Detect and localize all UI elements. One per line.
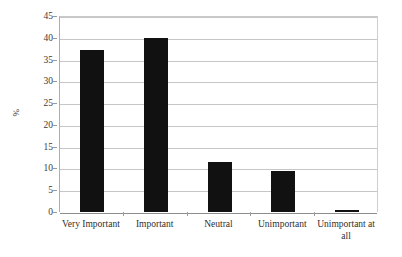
y-tick: 35 — [0, 60, 53, 61]
x-axis-category-label-line: Unimportant at — [310, 218, 382, 230]
bar-chart-figure: % 051015202530354045 Very ImportantImpor… — [0, 0, 402, 257]
x-axis-category-label-line: Important — [119, 218, 191, 230]
y-tick-mark — [53, 190, 57, 191]
y-axis-ticks: 051015202530354045 — [0, 16, 53, 212]
plot-area — [59, 16, 378, 212]
y-tick: 15 — [0, 147, 53, 148]
y-tick-mark — [53, 147, 57, 148]
y-tick-mark — [53, 212, 57, 213]
x-axis-category-label: Very Important — [55, 218, 127, 230]
x-axis-category-label-line: Unimportant — [246, 218, 318, 230]
x-axis-category-label: Neutral — [183, 218, 255, 230]
y-tick: 5 — [0, 190, 53, 191]
y-tick-label: 0 — [7, 207, 53, 217]
y-tick: 20 — [0, 125, 53, 126]
bar — [144, 38, 168, 212]
y-tick-mark — [53, 125, 57, 126]
y-tick: 25 — [0, 103, 53, 104]
x-tick-mark — [187, 212, 188, 216]
bars-group — [60, 17, 377, 212]
bar — [80, 50, 104, 212]
y-tick: 10 — [0, 168, 53, 169]
y-tick: 45 — [0, 16, 53, 17]
y-tick-mark — [53, 60, 57, 61]
y-tick: 30 — [0, 81, 53, 82]
y-tick: 40 — [0, 38, 53, 39]
y-tick-label: 30 — [7, 76, 53, 86]
bar — [271, 171, 295, 212]
y-tick-label: 45 — [7, 11, 53, 21]
y-tick-label: 20 — [7, 120, 53, 130]
y-tick-mark — [53, 168, 57, 169]
x-axis-category-label: Unimportant — [246, 218, 318, 230]
y-tick-label: 15 — [7, 142, 53, 152]
y-tick-mark — [53, 38, 57, 39]
x-axis-labels: Very ImportantImportantNeutralUnimportan… — [59, 218, 378, 252]
y-tick-label: 5 — [7, 185, 53, 195]
y-tick-label: 10 — [7, 163, 53, 173]
y-tick-label: 35 — [7, 55, 53, 65]
x-axis-ticks — [59, 212, 378, 217]
y-tick-mark — [53, 81, 57, 82]
y-tick-label: 25 — [7, 98, 53, 108]
x-axis-category-label-line: all — [310, 230, 382, 242]
y-tick-label: 40 — [7, 33, 53, 43]
x-axis-category-label-line: Neutral — [183, 218, 255, 230]
y-tick-mark — [53, 103, 57, 104]
x-axis-category-label: Unimportant atall — [310, 218, 382, 242]
x-axis-category-label-line: Very Important — [55, 218, 127, 230]
y-tick: 0 — [0, 212, 53, 213]
x-tick-mark — [314, 212, 315, 216]
x-tick-mark — [123, 212, 124, 216]
bar — [208, 162, 232, 212]
x-tick-mark — [250, 212, 251, 216]
x-axis-category-label: Important — [119, 218, 191, 230]
y-tick-mark — [53, 16, 57, 17]
